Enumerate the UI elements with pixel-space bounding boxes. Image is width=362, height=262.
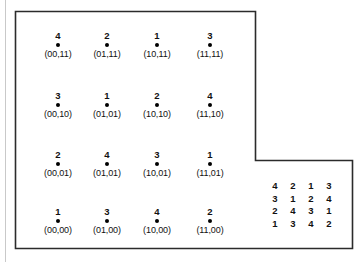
matrix-cell: 3 [320, 181, 338, 194]
point-dot-icon [56, 162, 60, 166]
point-dot-icon [105, 219, 109, 223]
point-dot-icon [155, 43, 159, 47]
matrix-block: 4 2 1 3 3 1 2 4 2 4 3 1 1 3 4 2 [266, 181, 338, 232]
lattice-point: 4 (11,10) [175, 91, 245, 119]
lattice-point: 1 (11,01) [175, 150, 245, 178]
point-dot-icon [155, 103, 159, 107]
point-rank: 2 [175, 207, 245, 217]
point-label: (11,01) [175, 169, 245, 178]
matrix-cell: 4 [302, 219, 320, 232]
matrix-cell: 2 [320, 219, 338, 232]
point-rank: 1 [175, 150, 245, 160]
point-dot-icon [208, 162, 212, 166]
point-rank: 3 [175, 31, 245, 41]
point-dot-icon [105, 162, 109, 166]
point-dot-icon [208, 43, 212, 47]
point-dot-icon [56, 219, 60, 223]
point-dot-icon [208, 103, 212, 107]
point-dot-icon [56, 43, 60, 47]
point-rank: 4 [175, 91, 245, 101]
matrix-cell: 1 [302, 181, 320, 194]
point-dot-icon [56, 103, 60, 107]
point-label: (11,00) [175, 226, 245, 235]
point-label: (11,10) [175, 110, 245, 119]
point-label: (11,11) [175, 50, 245, 59]
matrix-row: 1 3 4 2 [266, 219, 338, 232]
matrix-cell: 1 [266, 219, 284, 232]
point-dot-icon [208, 219, 212, 223]
point-dot-icon [155, 162, 159, 166]
lattice-point: 2 (11,00) [175, 207, 245, 235]
matrix-cell: 4 [266, 181, 284, 194]
lattice-point: 3 (11,11) [175, 31, 245, 59]
lattice-grid: 4 (00,11) 2 (01,11) 1 (10,11) 3 (11,11) … [15, 11, 256, 248]
matrix-cell: 2 [284, 181, 302, 194]
matrix-cell: 3 [284, 219, 302, 232]
matrix-row: 4 2 1 3 [266, 181, 338, 194]
point-dot-icon [105, 103, 109, 107]
point-dot-icon [155, 219, 159, 223]
point-dot-icon [105, 43, 109, 47]
